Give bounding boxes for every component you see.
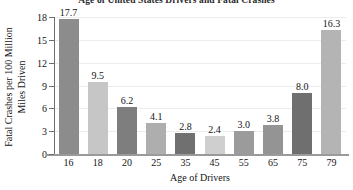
x-axis-title: Age of Drivers xyxy=(54,172,346,183)
bar-value-label: 3.8 xyxy=(267,113,280,124)
bar-value-label: 16.3 xyxy=(323,18,341,29)
bar-group: 4.1 xyxy=(142,17,171,154)
x-axis-tick-label: 75 xyxy=(297,157,307,168)
bar-group: 3.0 xyxy=(229,17,258,154)
x-axis-tick-label: 25 xyxy=(151,157,161,168)
x-axis-tick-label: 65 xyxy=(268,157,278,168)
y-axis-tick-label: 3 xyxy=(42,126,47,137)
y-axis-title-line-1: Fatal Crashes per 100 Million xyxy=(3,27,16,146)
y-axis-tick-mark xyxy=(49,131,54,132)
y-axis-tick-label: 12 xyxy=(37,57,47,68)
y-axis-line xyxy=(54,17,55,154)
bar-group: 17.7 xyxy=(54,17,83,154)
y-axis-tick-mark xyxy=(49,17,54,18)
y-axis-title-line-2: Miles Driven xyxy=(15,27,28,146)
y-axis-tick-mark xyxy=(49,40,54,41)
bar-group: 2.4 xyxy=(200,17,229,154)
bar-group: 16.3 xyxy=(317,17,346,154)
bar xyxy=(175,133,195,154)
y-axis-tick-mark xyxy=(49,86,54,87)
bar-group: 8.0 xyxy=(288,17,317,154)
bar-chart: Age of United States Drivers and Fatal C… xyxy=(0,0,353,190)
y-axis-tick-label: 6 xyxy=(42,103,47,114)
y-axis-tick-labels: 0369121518 xyxy=(30,13,50,158)
x-axis-tick-label: 35 xyxy=(180,157,190,168)
bar xyxy=(292,93,312,154)
bar-value-label: 2.4 xyxy=(208,124,221,135)
y-axis-title: Fatal Crashes per 100 Million Miles Driv… xyxy=(0,14,30,160)
bar-value-label: 6.2 xyxy=(121,95,134,106)
y-axis-tick-mark xyxy=(49,63,54,64)
bar-group: 6.2 xyxy=(112,17,141,154)
x-axis-tick-label: 18 xyxy=(93,157,103,168)
bar-group: 9.5 xyxy=(83,17,112,154)
bar xyxy=(117,107,137,154)
bar xyxy=(263,125,283,154)
bar-value-label: 8.0 xyxy=(296,81,309,92)
y-axis-tick-mark xyxy=(49,108,54,109)
bar-value-label: 2.8 xyxy=(179,121,192,132)
bar-value-label: 17.7 xyxy=(60,7,78,18)
x-axis-tick-label: 16 xyxy=(64,157,74,168)
x-axis-tick-labels: 16182025354555657579 xyxy=(54,157,346,171)
bar xyxy=(59,19,79,154)
bar-series: 17.79.56.24.12.82.43.03.88.016.3 xyxy=(54,17,346,154)
y-axis-tick-mark xyxy=(49,154,54,155)
x-axis-tick-label: 45 xyxy=(210,157,220,168)
bar xyxy=(88,82,108,154)
bar-group: 3.8 xyxy=(258,17,287,154)
x-axis-tick-label: 79 xyxy=(326,157,336,168)
bar-value-label: 9.5 xyxy=(92,70,105,81)
bar-value-label: 3.0 xyxy=(238,119,251,130)
bar-value-label: 4.1 xyxy=(150,111,163,122)
bar-group: 2.8 xyxy=(171,17,200,154)
plot-area: 17.79.56.24.12.82.43.03.88.016.3 xyxy=(54,17,346,154)
y-axis-tick-label: 9 xyxy=(42,80,47,91)
bar xyxy=(205,136,225,154)
x-axis-tick-label: 55 xyxy=(239,157,249,168)
chart-title: Age of United States Drivers and Fatal C… xyxy=(0,0,353,5)
bar xyxy=(146,123,166,154)
y-axis-tick-label: 15 xyxy=(37,34,47,45)
y-axis-tick-label: 18 xyxy=(37,12,47,23)
bar xyxy=(234,131,254,154)
bar xyxy=(321,30,341,154)
x-axis-tick-label: 20 xyxy=(122,157,132,168)
x-axis-line xyxy=(46,154,349,156)
